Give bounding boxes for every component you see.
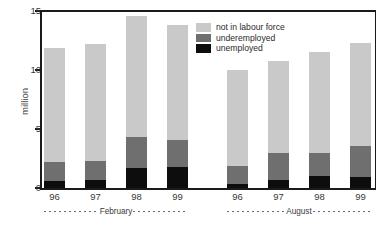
bar-stack xyxy=(44,48,65,188)
group-label: February xyxy=(44,205,188,217)
legend-swatch-icon xyxy=(196,44,211,53)
bar-stack xyxy=(350,43,371,188)
x-tick-label: 98 xyxy=(305,191,335,202)
bar-segment-underemployed xyxy=(85,161,106,180)
bar-segment-not-in-labour-force xyxy=(227,70,248,166)
x-tick-label: 99 xyxy=(346,191,376,202)
legend-item-not-in-labour-force: not in labour force xyxy=(196,23,285,32)
leader-line xyxy=(313,211,371,212)
legend-item-unemployed: unemployed xyxy=(196,44,285,53)
group-label-text: February xyxy=(99,207,134,216)
y-tick-label: 0 xyxy=(15,183,41,193)
legend-label: not in labour force xyxy=(216,23,285,32)
bar-segment-not-in-labour-force xyxy=(268,61,289,153)
legend-swatch-icon xyxy=(196,34,211,43)
x-tick-label: 97 xyxy=(81,191,111,202)
bar-segment-unemployed xyxy=(227,184,248,188)
bar-segment-underemployed xyxy=(350,146,371,178)
leader-line xyxy=(227,211,285,212)
bar-segment-not-in-labour-force xyxy=(167,25,188,139)
bar-segment-underemployed xyxy=(126,137,147,168)
x-tick-label: 97 xyxy=(264,191,294,202)
x-tick-label: 96 xyxy=(223,191,253,202)
bar-segment-unemployed xyxy=(85,180,106,188)
x-tick-label: 98 xyxy=(122,191,152,202)
legend-label: underemployed xyxy=(216,34,275,43)
group-label: August xyxy=(227,205,371,217)
bar-stack xyxy=(167,25,188,188)
legend-item-underemployed: underemployed xyxy=(196,34,285,43)
bar-segment-unemployed xyxy=(309,176,330,188)
bar-segment-not-in-labour-force xyxy=(309,52,330,152)
leader-line xyxy=(133,211,188,212)
bar-stack xyxy=(85,44,106,188)
bar-segment-underemployed xyxy=(167,140,188,167)
bar-stack xyxy=(126,16,147,188)
bar-segment-underemployed xyxy=(227,166,248,185)
y-axis-title: million xyxy=(19,72,30,132)
bar-segment-unemployed xyxy=(350,177,371,188)
bar-segment-unemployed xyxy=(268,180,289,188)
bar-segment-underemployed xyxy=(268,153,289,180)
bar-segment-not-in-labour-force xyxy=(44,48,65,162)
bar-stack xyxy=(309,52,330,188)
bar-stack xyxy=(227,70,248,188)
x-tick-label: 96 xyxy=(40,191,70,202)
legend-label: unemployed xyxy=(216,44,263,53)
bar-segment-underemployed xyxy=(44,162,65,181)
x-axis-line xyxy=(40,188,376,190)
group-label-text: August xyxy=(285,207,313,216)
bar-segment-unemployed xyxy=(44,181,65,188)
legend-swatch-icon xyxy=(196,23,211,32)
chart-legend: not in labour force underemployed unempl… xyxy=(196,23,285,55)
bar-segment-unemployed xyxy=(167,167,188,188)
bar-segment-not-in-labour-force xyxy=(85,44,106,161)
bar-stack xyxy=(268,61,289,188)
x-tick-label: 99 xyxy=(163,191,193,202)
leader-line xyxy=(44,211,99,212)
bar-segment-underemployed xyxy=(309,153,330,177)
bar-segment-not-in-labour-force xyxy=(126,16,147,138)
chart-container: 151050 million 9697989996979899 February… xyxy=(0,0,383,227)
bar-segment-not-in-labour-force xyxy=(350,43,371,146)
bar-segment-unemployed xyxy=(126,168,147,188)
y-tick-label: 15 xyxy=(15,6,41,16)
